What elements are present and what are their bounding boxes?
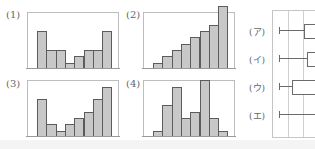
baseline	[26, 136, 120, 137]
baseline	[142, 136, 236, 137]
histogram-bar	[102, 31, 112, 69]
bars-1	[28, 13, 118, 69]
panel-label-3: (3)	[6, 78, 20, 90]
histogram-1	[27, 12, 119, 69]
histogram-4	[143, 80, 235, 137]
bars-4	[144, 81, 234, 137]
box-i	[307, 52, 315, 67]
bars-3	[28, 81, 118, 137]
panel-label-4: (4)	[126, 78, 140, 90]
panel-label-2: (2)	[126, 9, 140, 21]
whisker	[279, 30, 304, 31]
whisker	[279, 86, 292, 87]
boxplot-label-i: (イ)	[249, 53, 265, 66]
baseline	[142, 68, 236, 69]
histogram-bar	[218, 6, 228, 69]
histogram-bar	[102, 87, 112, 137]
whisker	[279, 114, 315, 115]
boxplot-label-e: (エ)	[249, 109, 265, 122]
whisker	[279, 58, 307, 59]
boxplot-label-a: (ア)	[249, 25, 265, 38]
baseline	[26, 68, 120, 69]
box-a	[304, 24, 315, 39]
box-u	[292, 80, 315, 95]
bars-2	[144, 13, 234, 69]
bottom-band	[0, 140, 315, 149]
histogram-3	[27, 80, 119, 137]
panel-label-1: (1)	[6, 9, 20, 21]
histogram-2	[143, 12, 235, 69]
boxplot-label-u: (ウ)	[249, 81, 265, 94]
